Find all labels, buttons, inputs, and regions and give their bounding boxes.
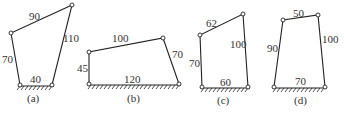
link-length-right-c: 100 [230, 38, 247, 50]
link-length-top-a: 90 [29, 10, 41, 22]
figure-caption-d: (d) [294, 94, 307, 107]
pivot-icon [87, 82, 91, 86]
figure-caption-a: (a) [27, 92, 40, 105]
pivot-icon [50, 83, 54, 87]
link-length-top-c: 62 [206, 17, 217, 29]
link-length-ground-c: 60 [220, 76, 232, 88]
pivot-icon [316, 13, 320, 17]
pivot-icon [272, 85, 276, 89]
pivot-icon [281, 18, 285, 22]
link-length-left-a: 70 [2, 53, 14, 65]
linkage-a [11, 5, 72, 85]
link-length-ground-d: 70 [295, 75, 307, 87]
pivot-icon [177, 82, 181, 86]
link-length-right-b: 70 [172, 48, 184, 60]
figure-a: 90 70 110 40 (a) [2, 3, 80, 105]
pivot-icon [70, 3, 74, 7]
link-length-ground-a: 40 [30, 73, 42, 85]
figure-c: 62 70 100 60 (c) [189, 12, 250, 107]
pivot-icon [241, 12, 245, 16]
link-length-top-d: 50 [293, 7, 305, 19]
pivot-icon [198, 33, 202, 37]
figure-d: 50 90 100 70 (d) [267, 7, 339, 107]
link-length-right-a: 110 [63, 32, 80, 44]
link-length-right-d: 100 [322, 33, 339, 45]
figure-caption-b: (b) [127, 92, 140, 105]
link-length-ground-b: 120 [124, 73, 141, 85]
pivot-icon [200, 85, 204, 89]
link-length-top-b: 100 [112, 32, 129, 44]
pivot-icon [9, 31, 13, 35]
link-length-left-d: 90 [267, 42, 279, 54]
link-length-left-b: 45 [77, 62, 89, 74]
pivot-icon [18, 83, 22, 87]
pivot-icon [161, 36, 165, 40]
pivot-icon [87, 50, 91, 54]
four-bar-linkage-diagrams: 90 70 110 40 (a) 100 45 70 120 [0, 0, 344, 114]
link-length-left-c: 70 [189, 57, 201, 69]
pivot-icon [246, 85, 250, 89]
pivot-icon [323, 85, 327, 89]
figure-caption-c: (c) [217, 94, 230, 107]
figure-b: 100 45 70 120 (b) [77, 32, 184, 105]
